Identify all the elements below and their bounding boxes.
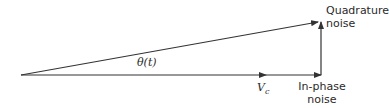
phasor-diagram: θ(t) Vc In-phase noise Quadrature noise bbox=[0, 0, 389, 108]
quadrature-line2: noise bbox=[326, 17, 389, 30]
quadrature-line1: Quadrature bbox=[326, 4, 389, 17]
carrier-subscript: c bbox=[265, 87, 269, 96]
inphase-noise-label: In-phase noise bbox=[296, 80, 348, 106]
carrier-label: Vc bbox=[257, 81, 269, 98]
inphase-line1: In-phase bbox=[296, 80, 348, 93]
carrier-symbol: V bbox=[257, 81, 265, 94]
angle-label: θ(t) bbox=[137, 56, 157, 69]
inphase-line2: noise bbox=[296, 93, 348, 106]
resultant-vector bbox=[21, 22, 318, 75]
quadrature-noise-label: Quadrature noise bbox=[326, 4, 389, 30]
